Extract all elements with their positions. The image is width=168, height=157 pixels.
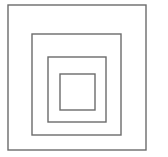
nested-squares-diagram — [0, 0, 168, 157]
second-square — [32, 34, 121, 135]
inner-square — [60, 74, 95, 110]
outer-square — [8, 5, 146, 150]
third-square — [48, 57, 106, 122]
